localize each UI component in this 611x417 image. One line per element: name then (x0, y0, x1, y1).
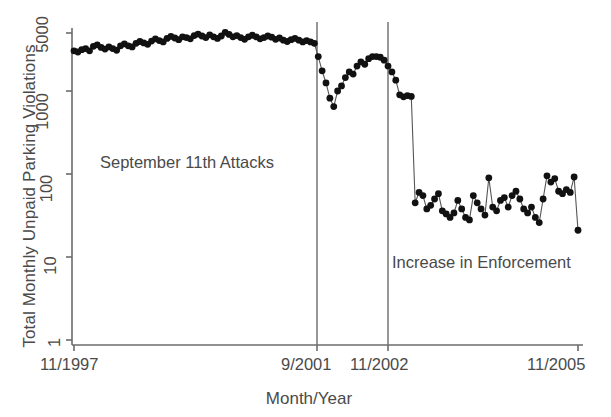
data-point (311, 40, 318, 47)
data-point (485, 174, 492, 181)
x-axis-title: Month/Year (194, 389, 424, 409)
x-tick-label-9-2001: 9/2001 (281, 355, 331, 374)
data-point (571, 174, 578, 181)
data-point (505, 204, 512, 211)
data-point (412, 199, 419, 206)
data-point (385, 63, 392, 70)
x-axis-ticks (74, 345, 578, 351)
data-point (326, 95, 333, 102)
data-point (474, 199, 481, 206)
data-point (408, 93, 415, 100)
data-point (524, 209, 531, 216)
data-point (470, 192, 477, 199)
data-point (361, 61, 368, 68)
data-point (389, 68, 396, 75)
x-tick-label-11-2002: 11/2002 (350, 355, 408, 374)
annotation-september-11: September 11th Attacks (100, 153, 274, 172)
data-point (323, 80, 330, 87)
data-point (350, 71, 357, 78)
data-point (482, 212, 489, 219)
data-point (454, 197, 461, 204)
chart-axes (66, 28, 583, 351)
data-point (330, 103, 337, 110)
data-point (513, 188, 520, 195)
y-axis-ticks (66, 33, 72, 340)
data-point (544, 172, 551, 179)
data-points (71, 29, 582, 234)
data-point (435, 190, 442, 197)
data-point (536, 219, 543, 226)
data-point (458, 205, 465, 212)
data-point (427, 202, 434, 209)
data-point (342, 74, 349, 81)
data-point (528, 204, 535, 211)
data-point (392, 77, 399, 84)
data-point (338, 83, 345, 90)
data-point (501, 194, 508, 201)
data-point (466, 216, 473, 223)
chart-figure: 5000 1000 100 10 1 11/1997 9/2001 11/200… (0, 0, 611, 417)
event-vertical-lines (317, 22, 388, 345)
data-point (551, 175, 558, 182)
x-tick-label-11-1997: 11/1997 (40, 355, 98, 374)
data-point (451, 209, 458, 216)
data-point (493, 207, 500, 214)
data-point (575, 227, 582, 234)
data-point (420, 192, 427, 199)
data-point (516, 196, 523, 203)
data-point (315, 53, 322, 60)
x-tick-label-11-2005: 11/2005 (527, 355, 585, 374)
y-tick-label-10: 10 (41, 236, 60, 296)
data-point (478, 205, 485, 212)
y-axis-title: Total Monthly Unpaid Parking Violations (20, 26, 40, 366)
data-point (567, 189, 574, 196)
data-point (381, 57, 388, 64)
data-point (319, 67, 326, 74)
data-point (540, 196, 547, 203)
annotation-increase-enforcement: Increase in Enforcement (392, 253, 571, 272)
